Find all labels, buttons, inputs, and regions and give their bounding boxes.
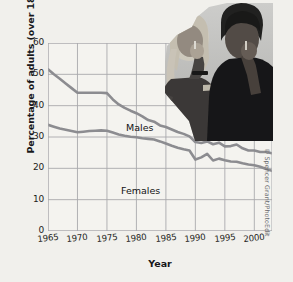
x-axis-ticks: 19651970197519801985199019952000 [0, 234, 293, 254]
x-tick-label: 1980 [125, 232, 147, 244]
x-axis-title: Year [48, 258, 272, 269]
y-tick-label: 50 [18, 68, 44, 78]
two-women-smoking-photo [137, 1, 273, 141]
smoking-trend-figure: Percentage of adults (over 18) who smoke… [0, 0, 293, 282]
y-tick-label: 10 [18, 194, 44, 204]
x-tick-label: 2000 [243, 232, 265, 244]
y-tick-label: 60 [18, 37, 44, 47]
x-tick-label: 1985 [155, 232, 177, 244]
photo-credit: © Spencer Grant/PhotoEdit [264, 148, 271, 258]
series-label-females: Females [121, 185, 160, 196]
x-tick-label: 1990 [184, 232, 206, 244]
y-tick-label: 40 [18, 100, 44, 110]
photo-svg [137, 1, 273, 141]
x-tick-label: 1975 [96, 232, 118, 244]
x-tick-label: 1995 [214, 232, 236, 244]
x-tick-label: 1970 [66, 232, 88, 244]
x-tick-label: 1965 [37, 232, 59, 244]
y-tick-label: 30 [18, 131, 44, 141]
y-tick-label: 20 [18, 162, 44, 172]
figure-root: Percentage of adults (over 18) who smoke… [0, 0, 293, 282]
